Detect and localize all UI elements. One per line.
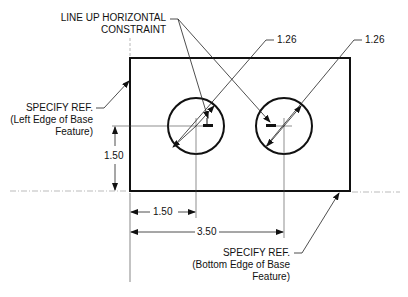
specify-left-text-3: Feature) (0, 126, 93, 138)
diameter-label-left: 1.26 (277, 34, 296, 46)
line-up-text-2: CONSTRAINT (40, 24, 166, 36)
line-up-constraint-label: LINE UP HORIZONTAL CONSTRAINT (40, 12, 166, 36)
horizontal-dimension-2-label: 3.50 (197, 226, 216, 238)
line-up-text-1: LINE UP HORIZONTAL (40, 12, 166, 24)
vertical-dimension-label: 1.50 (104, 150, 123, 162)
specify-bottom-text-1: SPECIFY REF. (180, 247, 290, 259)
diameter-label-right: 1.26 (365, 34, 384, 46)
diameter-arrow-right-a (267, 126, 284, 146)
specify-ref-left-arrow (104, 81, 129, 108)
specify-ref-bottom-label: SPECIFY REF. (Bottom Edge of Base Featur… (180, 247, 290, 283)
horizontal-constraint-symbol-right (266, 124, 276, 127)
specify-bottom-text-2: (Bottom Edge of Base (180, 259, 290, 271)
horizontal-constraint-symbol-left (203, 124, 213, 127)
line-up-leader-right (178, 19, 270, 122)
specify-ref-bottom-arrow (302, 193, 339, 253)
specify-bottom-text-3: Feature) (180, 271, 290, 283)
specify-left-text-1: SPECIFY REF. (0, 102, 93, 114)
base-feature-rectangle (130, 58, 350, 191)
diameter-arrow-left-a (173, 126, 196, 147)
specify-left-text-2: (Left Edge of Base (0, 114, 93, 126)
specify-ref-left-label: SPECIFY REF. (Left Edge of Base Feature) (0, 102, 93, 138)
diameter-arrow-right-b (284, 106, 301, 126)
line-up-leader-left (178, 19, 208, 118)
horizontal-dimension-1-label: 1.50 (153, 206, 172, 218)
